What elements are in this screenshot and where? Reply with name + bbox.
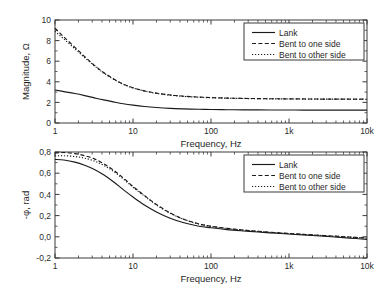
magnitude-plot: 1101001k10k0246810Frequency, HzMagnitude… [20, 15, 375, 149]
x-tick-label: 10 [128, 126, 138, 136]
y-tick-label: 0,4 [39, 190, 51, 200]
legend-label: Bent to one side [279, 39, 341, 49]
y-tick-label: 4 [46, 77, 51, 87]
x-tick-label: 1 [53, 261, 58, 271]
y-tick-label: 6 [46, 56, 51, 66]
x-tick-label: 100 [204, 261, 218, 271]
x-tick-label: 10 [128, 261, 138, 271]
y-tick-label: 0,8 [39, 147, 51, 157]
y-tick-label: -0,2 [36, 253, 51, 263]
y-tick-label: 0 [46, 118, 51, 128]
x-axis-title: Frequency, Hz [180, 273, 241, 284]
x-tick-label: 10k [360, 261, 374, 271]
legend-label: Bent to other side [279, 50, 346, 60]
figure-container: 1101001k10k0246810Frequency, HzMagnitude… [0, 0, 389, 301]
y-tick-label: 0,6 [39, 168, 51, 178]
series-line-solid [55, 90, 367, 110]
legend-label: Bent to other side [279, 182, 346, 192]
legend: LankBent to one sideBent to other side [244, 23, 364, 60]
phase-plot: 1101001k10k-0,20,00,20,40,60,8Frequency,… [20, 147, 375, 284]
legend-label: Lank [279, 160, 298, 170]
x-axis-title: Frequency, Hz [180, 138, 241, 149]
y-tick-label: 2 [46, 98, 51, 108]
legend-label: Bent to one side [279, 171, 341, 181]
legend: LankBent to one sideBent to other side [244, 155, 364, 192]
dual-bode-plot: 1101001k10k0246810Frequency, HzMagnitude… [0, 0, 389, 301]
x-tick-label: 1k [285, 261, 295, 271]
y-tick-label: 10 [42, 15, 52, 25]
y-tick-label: 0,0 [39, 232, 51, 242]
x-tick-label: 100 [204, 126, 218, 136]
x-tick-label: 1k [285, 126, 295, 136]
x-tick-label: 10k [360, 126, 374, 136]
y-tick-label: 0,2 [39, 211, 51, 221]
y-axis-title: -φ, rad [20, 191, 31, 219]
y-axis-title: Magnitude, Ω [20, 43, 31, 100]
x-tick-label: 1 [53, 126, 58, 136]
y-tick-label: 8 [46, 36, 51, 46]
legend-label: Lank [279, 28, 298, 38]
